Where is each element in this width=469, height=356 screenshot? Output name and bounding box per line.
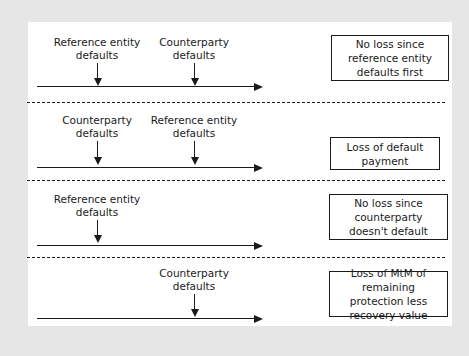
arrow-head-icon (191, 78, 199, 86)
timeline (37, 86, 255, 87)
arrow-head-icon (94, 78, 102, 86)
event-label-line: defaults (134, 280, 254, 293)
timeline (37, 245, 255, 246)
event-label: Counterparty defaults (134, 267, 254, 293)
event-label-line: Counterparty (134, 267, 254, 280)
divider (27, 102, 445, 103)
outcome-box: No loss since reference entity defaults … (331, 35, 449, 81)
arrow-head-icon (94, 157, 102, 165)
event-arrow (97, 220, 98, 236)
outcome-box: Loss of default payment (330, 137, 440, 170)
timeline-arrow-icon (254, 164, 263, 172)
timeline-arrow-icon (254, 315, 263, 323)
outcome-box: No loss since counterparty doesn't defau… (329, 194, 448, 240)
event-arrow (97, 63, 98, 79)
event-arrow (194, 294, 195, 310)
event-label: Counterparty defaults (134, 36, 254, 62)
divider (27, 180, 445, 181)
event-label-line: Reference entity (134, 114, 254, 127)
arrow-head-icon (191, 157, 199, 165)
event-label-line: defaults (134, 49, 254, 62)
event-label: Reference entity defaults (37, 193, 157, 219)
arrow-head-icon (94, 235, 102, 243)
event-arrow (97, 141, 98, 158)
arrow-head-icon (191, 309, 199, 317)
divider (27, 257, 445, 258)
outcome-box: Loss of MtM of remaining protection less… (329, 271, 448, 317)
event-label-line: Counterparty (134, 36, 254, 49)
event-arrow (194, 63, 195, 79)
timeline (37, 318, 255, 319)
event-label-line: defaults (134, 127, 254, 140)
event-label: Reference entity defaults (134, 114, 254, 140)
event-label-line: defaults (37, 206, 157, 219)
timeline (37, 167, 255, 168)
timeline-arrow-icon (254, 242, 263, 250)
timeline-arrow-icon (254, 83, 263, 91)
event-arrow (194, 141, 195, 158)
event-label-line: Reference entity (37, 193, 157, 206)
